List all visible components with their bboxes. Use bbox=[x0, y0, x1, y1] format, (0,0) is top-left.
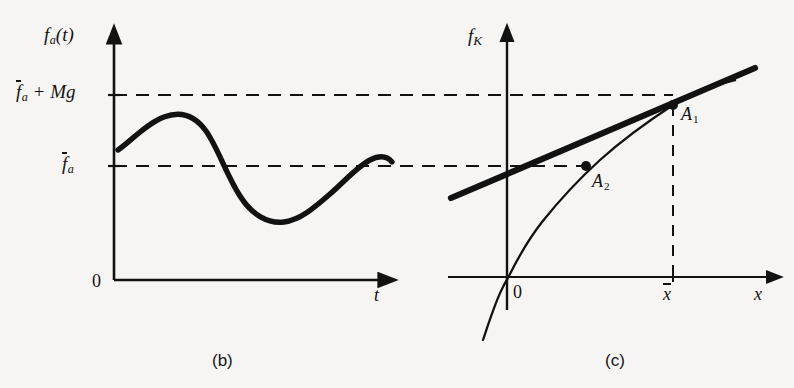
point-marker-a1 bbox=[668, 100, 678, 110]
reference-lines bbox=[114, 95, 673, 166]
point-label-a2: A2 bbox=[592, 172, 610, 193]
panel-b-level-low-f: f bbox=[62, 152, 67, 173]
panel-b-y-axis-label: fa(t) bbox=[44, 25, 74, 47]
point-label-a2-main: A bbox=[592, 171, 603, 191]
point-label-a1: A1 bbox=[681, 105, 699, 126]
panel-b-origin-label: 0 bbox=[92, 272, 101, 290]
panel-c-x-axis-label: x bbox=[754, 285, 762, 303]
panel-b-level-high-f: f bbox=[16, 80, 21, 101]
panel-b-level-label-high: fa + Mg bbox=[16, 80, 76, 104]
panel-b-level-label-low: fa bbox=[62, 152, 74, 176]
panel-b-axes bbox=[108, 42, 380, 280]
panel-b-level-high-rest: + Mg bbox=[33, 81, 76, 102]
figure-drawing bbox=[0, 0, 794, 388]
point-label-a1-sub: 1 bbox=[692, 113, 699, 125]
panel-b-level-high-sub: a bbox=[21, 90, 28, 104]
panel-c-y-axis-label: fK bbox=[468, 26, 482, 47]
panel-c-y-axis-label-sub: K bbox=[473, 33, 482, 48]
panel-b-level-low-sub: a bbox=[67, 162, 74, 176]
panel-b-x-axis-label: t bbox=[374, 286, 379, 304]
panel-b-force-curve bbox=[118, 114, 392, 222]
panel-b-y-axis-label-sub: a bbox=[49, 33, 56, 47]
point-label-a1-main: A bbox=[681, 104, 692, 124]
caption-panel-b: (b) bbox=[212, 352, 233, 369]
panel-b-y-axis-label-arg: (t) bbox=[56, 24, 74, 45]
panel-c-origin-label: 0 bbox=[513, 283, 522, 301]
point-label-a2-sub: 2 bbox=[603, 180, 610, 192]
caption-panel-c: (c) bbox=[605, 352, 625, 369]
panel-c-tick-label-xbar: x bbox=[663, 283, 671, 303]
panel-c-tick-label-xbar-text: x bbox=[663, 283, 671, 303]
figure-container: fa(t) fa + Mg fa 0 t fK A1 A2 0 x x (b) … bbox=[0, 0, 794, 388]
point-marker-a2 bbox=[581, 161, 591, 171]
